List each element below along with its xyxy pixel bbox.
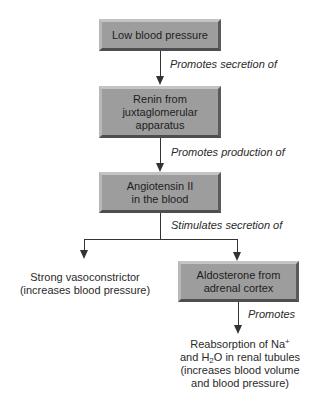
box-low-blood-pressure: Low blood pressure bbox=[99, 19, 221, 51]
arrow-left-head-icon bbox=[80, 250, 88, 259]
arrow-1-line bbox=[160, 51, 161, 78]
arrow-2-head-icon bbox=[156, 163, 164, 172]
arrow-4-head-icon bbox=[234, 325, 242, 334]
branch-horizontal-line bbox=[84, 239, 238, 240]
branch-stem-line bbox=[160, 213, 161, 239]
outcome-reabsorption-line1: Reabsorption of Na+ bbox=[180, 338, 300, 351]
outcome-reabsorption-line3: (increases blood volume bbox=[180, 364, 300, 377]
arrow-4-line bbox=[238, 302, 239, 326]
edge-label-promotes-secretion: Promotes secretion of bbox=[170, 58, 277, 71]
edge-label-promotes: Promotes bbox=[248, 308, 295, 321]
reabsorption-text: Reabsorption of Na bbox=[190, 338, 285, 350]
sodium-charge: + bbox=[285, 337, 290, 346]
box-aldosterone-label: Aldosterone from adrenal cortex bbox=[197, 269, 281, 295]
outcome-reabsorption-line2: and H2O in renal tubules bbox=[180, 351, 300, 364]
edge-label-stimulates-secretion: Stimulates secretion of bbox=[171, 219, 282, 232]
box-renin: Renin from juxtaglomerular apparatus bbox=[99, 86, 221, 138]
arrow-right-head-icon bbox=[233, 252, 241, 261]
box-angiotensin-ii-label: Angiotensin II in the blood bbox=[127, 180, 194, 206]
box-aldosterone: Aldosterone from adrenal cortex bbox=[178, 261, 299, 302]
edge-label-promotes-production: Promotes production of bbox=[171, 146, 285, 159]
arrow-2-line bbox=[160, 138, 161, 164]
water-suffix: O in renal tubules bbox=[214, 351, 300, 363]
box-low-blood-pressure-label: Low blood pressure bbox=[112, 29, 208, 42]
water-prefix: and H bbox=[180, 351, 209, 363]
outcome-vasoconstrictor-line2: (increases blood pressure) bbox=[14, 284, 156, 297]
arrow-1-head-icon bbox=[156, 76, 164, 85]
box-angiotensin-ii: Angiotensin II in the blood bbox=[99, 172, 221, 213]
arrow-right-line bbox=[237, 239, 238, 253]
box-renin-label: Renin from juxtaglomerular apparatus bbox=[122, 93, 197, 132]
outcome-reabsorption: Reabsorption of Na+ and H2O in renal tub… bbox=[180, 338, 300, 390]
outcome-reabsorption-line4: and blood pressure) bbox=[180, 377, 300, 390]
outcome-vasoconstrictor-line1: Strong vasoconstrictor bbox=[14, 271, 156, 284]
outcome-vasoconstrictor: Strong vasoconstrictor (increases blood … bbox=[14, 271, 156, 297]
